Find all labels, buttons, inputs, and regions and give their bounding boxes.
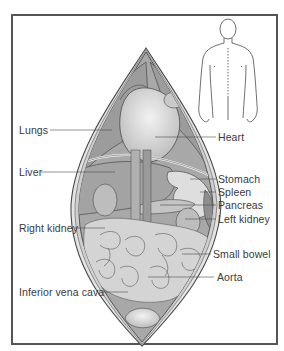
label-right-kidney: Right kidney (19, 222, 78, 234)
label-small-bowel: Small bowel (213, 248, 271, 260)
label-aorta: Aorta (217, 271, 243, 283)
label-inferior-vena-cava: Inferior vena cava (19, 286, 104, 298)
label-pancreas: Pancreas (218, 199, 263, 211)
label-heart: Heart (218, 131, 244, 143)
label-liver: Liver (19, 166, 42, 178)
label-spleen: Spleen (218, 186, 251, 198)
label-stomach: Stomach (218, 173, 260, 185)
body-silhouette-icon (199, 19, 258, 122)
right-kidney-shape (93, 184, 117, 216)
label-lungs: Lungs (19, 124, 48, 136)
label-left-kidney: Left kidney (218, 213, 270, 225)
anatomy-figure: Lungs Liver Right kidney Inferior vena c… (0, 0, 284, 351)
